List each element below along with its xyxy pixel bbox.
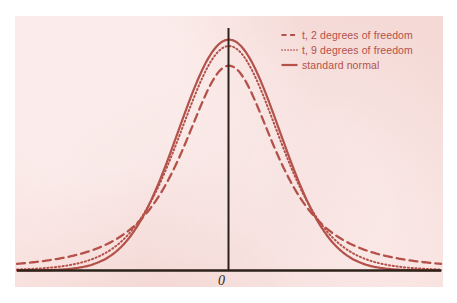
origin-tick-label: 0 (218, 273, 225, 289)
legend-entry-standard-normal: standard normal (281, 58, 437, 72)
legend-label-t9: t, 9 degrees of freedom (302, 44, 413, 56)
legend-swatch-dashed (281, 29, 298, 41)
legend-label-t2: t, 2 degrees of freedom (302, 29, 413, 41)
legend-entry-t9: t, 9 degrees of freedom (281, 43, 437, 57)
figure-root: t, 2 degrees of freedom t, 9 degrees of … (0, 0, 457, 303)
legend-swatch-dotted (281, 44, 298, 56)
legend-swatch-solid (281, 59, 298, 71)
legend-label-standard-normal: standard normal (302, 59, 379, 71)
legend-entry-t2: t, 2 degrees of freedom (281, 28, 437, 42)
legend: t, 2 degrees of freedom t, 9 degrees of … (281, 28, 437, 73)
